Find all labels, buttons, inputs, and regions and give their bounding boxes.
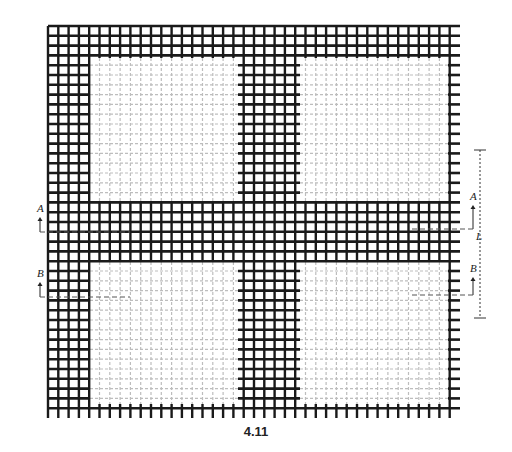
dimension-label-l: L [475,230,482,242]
section-label-a-left: A [36,202,44,214]
arrow-up-icon [471,277,476,281]
figure-caption: 4.11 [0,424,512,439]
repeat-dimension-L: L [474,150,486,318]
section-label-a-right: A [469,190,477,202]
weave-diagram: ABAB L [0,0,512,452]
arrow-up-icon [471,205,476,209]
arrow-up-icon [38,282,43,286]
section-label-b-right: B [470,262,477,274]
arrow-up-icon [38,217,43,221]
section-label-b-left: B [37,267,44,279]
